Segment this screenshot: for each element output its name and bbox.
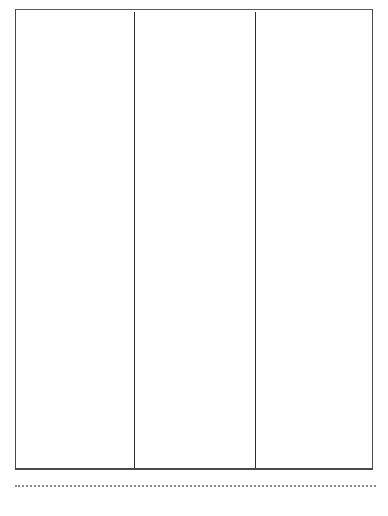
column-3 <box>256 12 373 468</box>
dotted-separator-line <box>15 485 376 487</box>
column-1 <box>16 12 134 468</box>
column-2 <box>135 12 255 468</box>
